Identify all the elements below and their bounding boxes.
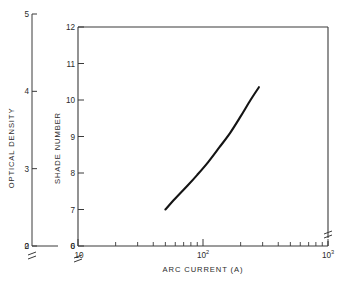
shade-number-tick-label: 11 [67,60,76,69]
optical-density-tick-label: 4 [24,87,29,96]
x-axis-tick-label: 103 [322,249,334,260]
x-axis-title: ARC CURRENT (A) [163,265,244,274]
shade-number-tick-label: 9 [70,133,75,142]
shade-number-tick-label: 12 [66,23,76,32]
optical-density-tick-label: 5 [24,10,29,19]
chart-figure: 23450OPTICAL DENSITY67891011120SHADE NUM… [0,0,344,282]
x-axis-tick-exponent: 3 [331,249,334,255]
optical-density-axis-break [28,252,36,259]
shade-number-zero-label: 0 [70,242,75,251]
chart-canvas: 23450OPTICAL DENSITY67891011120SHADE NUM… [0,0,344,282]
y-axis-right-title: SHADE NUMBER [53,112,62,184]
shade-number-tick-label: 10 [66,96,76,105]
optical-density-tick-label: 3 [24,165,29,174]
x-axis-tick-label: 10 [74,251,84,260]
y-axis-left-title: OPTICAL DENSITY [7,108,16,189]
x-axis-tick-exponent: 2 [206,249,209,255]
x-axis-tick-label: 102 [197,249,209,260]
optical-density-zero-label: 0 [24,242,29,251]
data-series-curve [165,87,259,209]
shade-number-tick-label: 7 [70,206,75,215]
shade-number-tick-label: 8 [70,169,75,178]
